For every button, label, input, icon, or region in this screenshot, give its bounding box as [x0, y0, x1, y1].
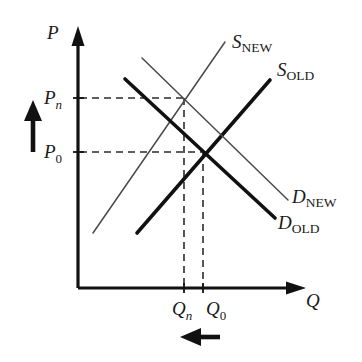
supply-old-label: SOLD	[277, 59, 314, 83]
demand-old-label-base: D	[277, 212, 292, 233]
supply-new-label: SNEW	[232, 31, 272, 55]
supply-new-label-subscript: NEW	[242, 40, 273, 55]
demand-new-label-base: D	[291, 186, 306, 207]
price-axis-label: P	[46, 22, 59, 43]
quantity-old-tick-label: Q0	[206, 298, 226, 323]
guide-lines-group	[80, 98, 203, 286]
quantity-left-arrow-head	[180, 328, 201, 346]
supply-new-curve	[93, 42, 225, 233]
quantity-new-tick-label: Qn	[172, 298, 192, 323]
demand-new-label-subscript: NEW	[306, 195, 337, 210]
axes-group	[72, 26, 307, 295]
supply-old-label-subscript: OLD	[287, 68, 315, 83]
quantity-axis-label: Q	[306, 290, 320, 311]
curve-labels-group: SNEW SOLD DNEW DOLD	[232, 31, 337, 236]
demand-old-label: DOLD	[277, 212, 320, 236]
diagram-canvas: SNEW SOLD DNEW DOLD P Q Pn P0	[0, 0, 362, 362]
price-new-tick-label: Pn	[43, 87, 62, 112]
quantity-old-tick-label-base: Q	[206, 298, 220, 319]
price-axis-arrowhead	[72, 26, 85, 46]
supply-old-label-base: S	[277, 59, 287, 80]
curves-group	[93, 42, 288, 233]
supply-old-curve	[137, 80, 270, 233]
price-up-arrow-head	[24, 100, 42, 121]
quantity-new-tick-label-subscript: n	[186, 308, 193, 323]
quantity-axis-arrowhead	[286, 282, 306, 295]
demand-old-label-subscript: OLD	[292, 221, 320, 236]
supply-new-label-base: S	[232, 31, 242, 52]
price-old-tick-label-subscript: 0	[56, 151, 63, 166]
demand-new-label: DNEW	[291, 186, 337, 210]
quantity-old-tick-label-subscript: 0	[220, 308, 227, 323]
price-new-tick-label-subscript: n	[56, 97, 63, 112]
price-old-tick-label-base: P	[43, 141, 56, 162]
demand-new-curve	[142, 58, 288, 200]
price-new-tick-label-base: P	[43, 87, 56, 108]
supply-demand-diagram: SNEW SOLD DNEW DOLD P Q Pn P0	[0, 0, 362, 362]
price-old-tick-label: P0	[43, 141, 62, 166]
quantity-new-tick-label-base: Q	[172, 298, 186, 319]
